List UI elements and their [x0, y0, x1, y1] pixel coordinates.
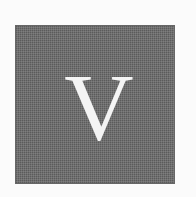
drop-cap-box: V — [15, 25, 175, 184]
drop-cap-letter: V — [16, 26, 174, 183]
document-page: V — [0, 0, 196, 197]
